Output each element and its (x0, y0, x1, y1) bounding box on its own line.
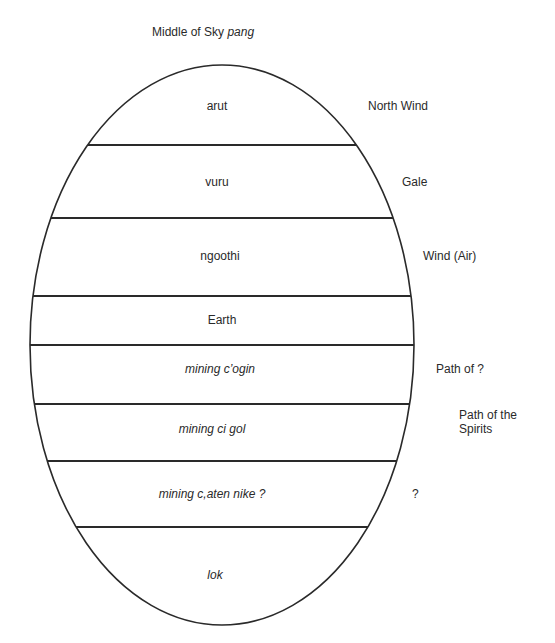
layer-native-arut: arut (207, 99, 228, 113)
cosmology-egg-diagram (0, 0, 555, 643)
gloss-gale: Gale (402, 175, 427, 189)
layer-native-lok: lok (207, 568, 222, 582)
layer-native-vuru: vuru (205, 175, 228, 189)
layer-native-mining-ci-gol: mining ci gol (179, 422, 246, 436)
title-native: pang (227, 25, 254, 39)
title-text: Middle of Sky (152, 25, 224, 39)
layer-native-mining-cogin: mining c’ogin (185, 362, 255, 376)
diagram-title: Middle of Sky pang (152, 25, 254, 39)
gloss-north-wind: North Wind (368, 99, 428, 113)
gloss-path-of-unknown: Path of ? (436, 362, 484, 376)
gloss-wind-air: Wind (Air) (423, 249, 476, 263)
layer-native-ngoothi: ngoothi (200, 249, 239, 263)
gloss-path-of-the-spirits: Path of the Spirits (459, 408, 539, 436)
layer-native-mining-caten-nike: mining c,aten nike ? (159, 487, 266, 501)
gloss-unknown: ? (412, 487, 419, 501)
layer-native-earth: Earth (208, 313, 237, 327)
